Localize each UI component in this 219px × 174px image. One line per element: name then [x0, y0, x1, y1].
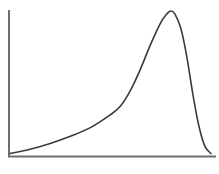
chart — [0, 0, 219, 174]
series-line-left-skewed-distribution — [10, 11, 211, 154]
